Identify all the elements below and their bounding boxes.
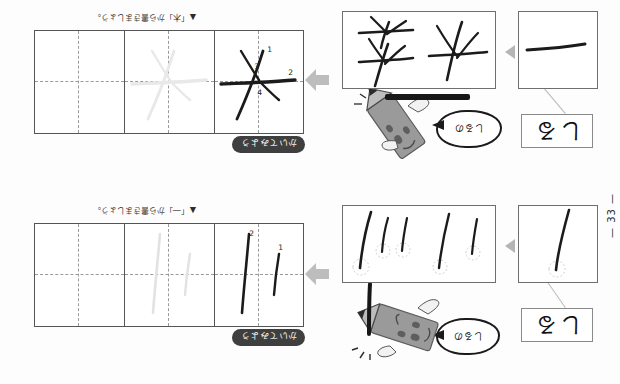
character-card-label: しる [532, 315, 582, 336]
practice-badge-top: かいてみよう [233, 330, 304, 345]
stroke-number-1: 1 [267, 45, 272, 54]
page-number: — 33 — [606, 193, 617, 238]
sample-box-bottom-1 [518, 11, 598, 89]
character-card-label: しる [532, 121, 582, 142]
practice-grid-top[interactable]: 1 2 [34, 223, 304, 327]
step-arrow-top [505, 239, 515, 253]
sample-box-top-1 [518, 205, 598, 283]
stroke-number-4: 4 [257, 88, 262, 97]
grid-cell[interactable]: 1 2 [214, 223, 304, 327]
exercise-row-top: しる しるの [0, 192, 620, 384]
grid-cell[interactable] [124, 223, 214, 327]
section-arrow-bottom [305, 69, 329, 91]
character-card-top: しる [521, 308, 593, 342]
grid-cell[interactable]: 1 2 3 4 [214, 30, 304, 134]
grid-cell[interactable] [34, 223, 124, 327]
caption-marker: ▲ [190, 206, 196, 215]
caption-marker: ▲ [190, 13, 196, 22]
workbook-page: しる しるの [0, 0, 620, 384]
grid-center-vertical [79, 224, 80, 326]
section-arrow-top [305, 263, 329, 285]
practice-badge-label: かいてみよう [240, 139, 297, 151]
grid-center-horizontal [35, 274, 124, 275]
speech-bubble-bottom: しるの [436, 110, 502, 148]
practice-grid-bottom[interactable]: 1 2 3 4 [34, 30, 304, 134]
speech-bubble-label: しるの [453, 330, 483, 343]
step-arrow-bottom [505, 45, 515, 59]
caption-text: 「―」から書きましょう。 [93, 206, 189, 215]
stroke-number-1: 1 [278, 243, 283, 252]
speech-bubble-label: しるの [454, 123, 484, 136]
grid-center-vertical [79, 31, 80, 133]
practice-badge-label: かいてみよう [240, 332, 297, 344]
practice-badge-bottom: かいてみよう [233, 137, 304, 152]
drawn-horizontal-stroke [385, 94, 470, 100]
character-card-bottom: しる [521, 114, 593, 148]
caption-text: 「木」から書きましょう。 [93, 13, 189, 22]
stroke-number-2: 2 [249, 229, 254, 238]
caption-top: ▲「―」から書きましょう。 [93, 206, 196, 217]
grid-cell[interactable] [34, 30, 124, 134]
stroke-number-3: 3 [254, 62, 259, 71]
grid-center-horizontal [35, 81, 124, 82]
pencil-mascot-top [353, 286, 448, 358]
grid-cell[interactable] [124, 30, 214, 134]
sample-box-bottom-2 [342, 11, 496, 89]
sample-box-top-2 [342, 205, 496, 283]
stroke-number-2: 2 [288, 68, 293, 77]
exercise-row-bottom: しる しるの [0, 0, 620, 192]
caption-bottom: ▲「木」から書きましょう。 [93, 13, 196, 24]
